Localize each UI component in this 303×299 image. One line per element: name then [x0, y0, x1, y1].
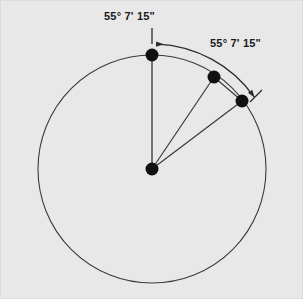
radius-line-to-second-point — [152, 77, 214, 169]
first-angle-label: 55° 7' 15" — [104, 10, 155, 22]
circle-angle-figure: 55° 7' 15" 55° 7' 15" — [0, 0, 303, 299]
second-point — [208, 71, 221, 84]
third-point — [236, 95, 249, 108]
top-point — [146, 49, 159, 62]
center-point — [146, 163, 159, 176]
arc-end-tick — [250, 90, 262, 102]
radius-line-to-third-point — [152, 101, 242, 169]
second-angle-label: 55° 7' 15" — [210, 37, 261, 49]
